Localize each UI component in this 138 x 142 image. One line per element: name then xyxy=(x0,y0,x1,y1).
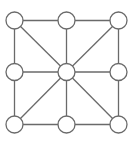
node-n11 xyxy=(58,64,75,81)
node-n12 xyxy=(110,64,127,81)
edge-n22-n11 xyxy=(67,72,119,125)
node-n22 xyxy=(110,116,127,133)
node-n21 xyxy=(58,116,75,133)
node-n10 xyxy=(6,64,23,81)
node-n00 xyxy=(6,12,23,29)
edge-n00-n11 xyxy=(15,21,67,73)
node-n01 xyxy=(58,12,75,29)
edge-n02-n11 xyxy=(67,21,119,73)
node-n20 xyxy=(6,116,23,133)
node-n02 xyxy=(110,12,127,29)
edge-n20-n11 xyxy=(15,72,67,125)
graph-diagram xyxy=(0,0,138,142)
